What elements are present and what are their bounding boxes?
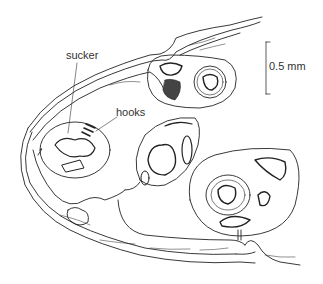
tissue-wall <box>21 17 300 265</box>
sucker-label: sucker <box>66 49 98 61</box>
cyst-middle <box>136 118 199 186</box>
cyst-left <box>40 122 110 178</box>
cyst-top <box>147 55 236 108</box>
leader-lines <box>68 63 117 133</box>
hooks-label: hooks <box>116 106 145 118</box>
scale-bar-label: 0.5 mm <box>269 60 306 72</box>
cyst-right <box>189 148 299 236</box>
cross-section-illustration <box>0 0 323 284</box>
